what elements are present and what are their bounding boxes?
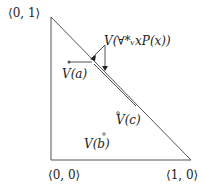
corner-bottom-left-label: ⟨0, 0⟩ bbox=[48, 168, 80, 182]
diagram-canvas bbox=[0, 0, 203, 194]
point-forall-label: V(∀*ᵥxP(x)) bbox=[104, 34, 171, 48]
corner-top-label: ⟨0, 1⟩ bbox=[8, 6, 40, 20]
point-vb bbox=[103, 133, 106, 136]
point-vc-label: V(c) bbox=[116, 113, 141, 127]
diagram: ⟨0, 1⟩ ⟨0, 0⟩ ⟨1, 0⟩ V(a) V(b) V(c) V(∀*… bbox=[0, 0, 203, 194]
corner-bottom-right-label: ⟨1, 0⟩ bbox=[166, 168, 198, 182]
point-vb-label: V(b) bbox=[84, 137, 110, 151]
point-va bbox=[68, 61, 71, 64]
double-edge-line bbox=[94, 64, 136, 106]
point-va-label: V(a) bbox=[62, 67, 87, 81]
